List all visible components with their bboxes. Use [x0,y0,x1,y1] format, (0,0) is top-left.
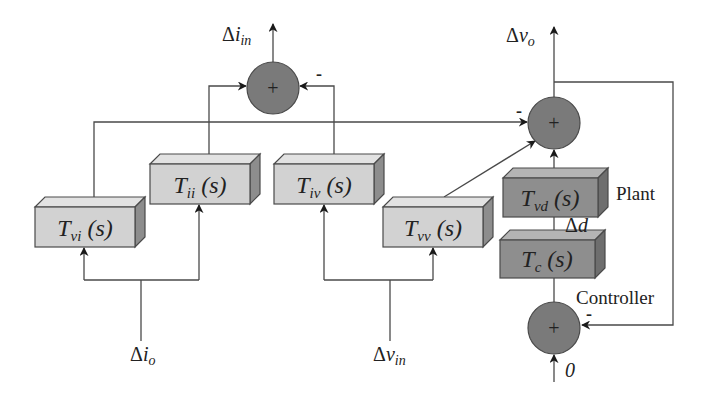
block-tvd-label: Tvd (s) [521,185,580,214]
block-tvi-label: Tvi (s) [57,215,113,244]
plus-sign: + [548,317,559,339]
block-tiv: Tiv (s) [274,154,384,204]
block-tc-label: Tc (s) [521,246,572,275]
block-tii-label: Tii (s) [173,172,226,201]
signal-delta-vin: Δvin [373,343,406,368]
annotation-controller: Controller [576,287,655,308]
signal-delta-iin: Δiin [222,23,251,48]
block-tii: Tii (s) [150,154,260,204]
summing-junction-controller: + - [528,302,592,354]
annotation-plant: Plant [616,183,656,204]
minus-sign: - [316,64,322,84]
summing-junction-vo: + - [516,97,580,149]
plus-sign: + [548,112,559,134]
plus-sign: + [267,77,278,99]
block-tiv-label: Tiv (s) [296,172,352,201]
block-tvd-plant: Tvd (s) [503,168,608,217]
signal-delta-d: Δd [565,214,589,236]
block-tvv-label: Tvv (s) [404,215,462,244]
minus-sign: - [516,101,522,121]
signal-delta-vo: Δvo [506,24,535,49]
block-tc-controller: Tc (s) [500,230,605,278]
block-diagram: Tvi (s) Tii (s) Tiv (s) Tvv (s) Tvd (s) … [0,0,708,401]
block-tvv: Tvv (s) [383,197,493,247]
wire-tiv-to-sum-iin [300,86,334,154]
signal-zero-reference: 0 [565,359,575,381]
block-tvi: Tvi (s) [35,197,145,247]
wire-tii-to-sum-iin [209,86,246,154]
summing-junction-iin: + - [247,62,322,114]
signal-delta-io: Δio [130,343,155,368]
